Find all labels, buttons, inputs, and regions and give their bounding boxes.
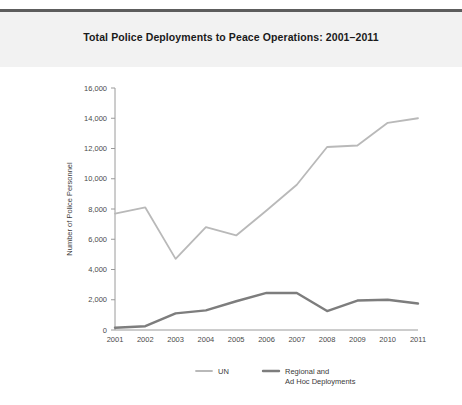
y-tick-label: 6,000 (88, 235, 107, 244)
y-tick-label: 2,000 (88, 295, 107, 304)
x-tick-label: 2009 (349, 335, 366, 344)
y-tick-label: 4,000 (88, 265, 107, 274)
x-tick-label: 2001 (107, 335, 124, 344)
y-tick-label: 8,000 (88, 205, 107, 214)
x-tick-label: 2011 (410, 335, 426, 344)
y-axis-tick-labels: 02,0004,0006,0008,00010,00012,00014,0001… (84, 84, 107, 335)
y-tick-label: 12,000 (84, 144, 107, 153)
legend-label: UN (218, 367, 229, 376)
x-axis-tick-labels: 2001200220032004200520062007200820092010… (107, 335, 426, 344)
page-title: Total Police Deployments to Peace Operat… (0, 31, 462, 43)
chart-container: 02,0004,0006,0008,00010,00012,00014,0001… (0, 67, 462, 405)
x-tick-label: 2010 (379, 335, 396, 344)
x-tick-label: 2004 (198, 335, 215, 344)
y-tick-label: 0 (103, 326, 107, 335)
x-tick-label: 2007 (288, 335, 305, 344)
legend-label-line2: Ad Hoc Deployments (285, 377, 356, 386)
series-line-regional (115, 293, 418, 328)
y-axis-ticks (111, 88, 115, 330)
y-tick-label: 16,000 (84, 84, 107, 93)
y-tick-label: 14,000 (84, 114, 107, 123)
y-axis-title: Number of Police Personnel (65, 162, 74, 256)
series-line-un (115, 118, 418, 259)
chart-legend: UNRegional andAd Hoc Deployments (196, 367, 356, 386)
x-tick-label: 2002 (137, 335, 154, 344)
legend-label: Regional and (285, 367, 329, 376)
x-tick-label: 2006 (258, 335, 275, 344)
x-tick-label: 2008 (319, 335, 336, 344)
x-tick-label: 2005 (228, 335, 245, 344)
y-tick-label: 10,000 (84, 174, 107, 183)
chart-page: Total Police Deployments to Peace Operat… (0, 0, 462, 405)
line-chart-svg: 02,0004,0006,0008,00010,00012,00014,0001… (0, 67, 462, 405)
x-tick-label: 2003 (167, 335, 184, 344)
